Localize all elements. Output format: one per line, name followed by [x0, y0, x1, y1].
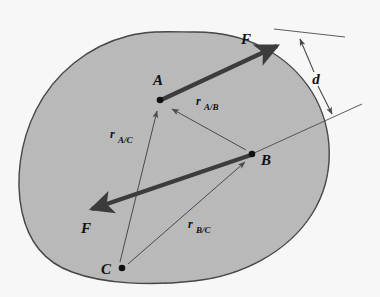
dimension-ext-line-top: [274, 29, 345, 37]
point-label-c: C: [101, 261, 112, 277]
dimension-label-d: d: [312, 71, 320, 87]
diagram-svg: d r B/C r A/C r A/B F F A B C: [0, 0, 380, 297]
force-label-f-upper: F: [240, 31, 251, 47]
rigid-body-shape: [19, 32, 329, 284]
point-label-b: B: [260, 152, 271, 168]
r-a-b-main: r: [196, 94, 201, 108]
r-a-b-sub: A/B: [203, 102, 219, 112]
r-b-c-sub: B/C: [195, 225, 212, 235]
r-a-c-main: r: [110, 127, 115, 141]
r-b-c-main: r: [188, 217, 193, 231]
force-label-f-lower: F: [80, 220, 91, 236]
r-a-c-sub: A/C: [117, 135, 134, 145]
figure-canvas: d r B/C r A/C r A/B F F A B C: [0, 0, 380, 297]
point-label-a: A: [152, 72, 163, 88]
